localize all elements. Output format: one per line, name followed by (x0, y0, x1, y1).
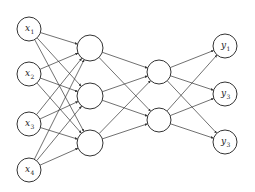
node-g2 (147, 108, 171, 132)
edge-g2-y3 (170, 124, 213, 138)
edge-h1-g1 (102, 52, 147, 68)
node-label: x (25, 23, 30, 33)
node-x4: x4 (17, 158, 41, 182)
node-subscript: 2 (31, 73, 35, 80)
node-y1: y1 (213, 34, 237, 58)
node-subscript: 1 (227, 45, 231, 52)
node-circle (147, 60, 171, 84)
edge-x2-h2 (40, 78, 77, 92)
node-circle (77, 130, 103, 156)
edge-x4-h3 (40, 148, 78, 165)
node-h2 (77, 83, 103, 109)
edge-x3-h1 (37, 58, 82, 115)
node-label: x (25, 164, 30, 174)
edge-g2-y1 (167, 55, 217, 111)
nodes: x1x2x3x4y1y3y3 (17, 17, 237, 182)
node-subscript: 1 (31, 28, 35, 35)
node-circle (77, 83, 103, 109)
node-circle (147, 108, 171, 132)
node-x1: x1 (17, 17, 41, 41)
node-subscript: 3 (227, 93, 231, 100)
node-label: x (25, 68, 30, 78)
node-circle (77, 35, 103, 61)
node-x3: x3 (17, 112, 41, 136)
edge-x4-h2 (37, 106, 82, 161)
node-subscript: 4 (31, 169, 35, 176)
node-g1 (147, 60, 171, 84)
edge-g2-y2 (170, 98, 214, 115)
node-h1 (77, 35, 103, 61)
edge-h2-g1 (102, 76, 147, 92)
node-subscript: 3 (31, 123, 35, 130)
node-label: x (25, 118, 30, 128)
edge-h3-g2 (102, 124, 147, 139)
node-x2: x2 (17, 62, 41, 86)
node-y2: y3 (213, 82, 237, 106)
node-y3: y3 (213, 130, 237, 154)
edge-h2-g2 (102, 100, 147, 116)
network-svg: x1x2x3x4y1y3y3 (0, 0, 255, 192)
node-h3 (77, 130, 103, 156)
edge-g1-y1 (170, 50, 214, 67)
edge-x2-h1 (40, 53, 78, 69)
node-subscript: 3 (227, 141, 231, 148)
edge-h1-g2 (99, 57, 151, 111)
neural-network-diagram: x1x2x3x4y1y3y3 (0, 0, 255, 192)
connections (34, 33, 217, 166)
edge-x1-h1 (40, 33, 77, 45)
